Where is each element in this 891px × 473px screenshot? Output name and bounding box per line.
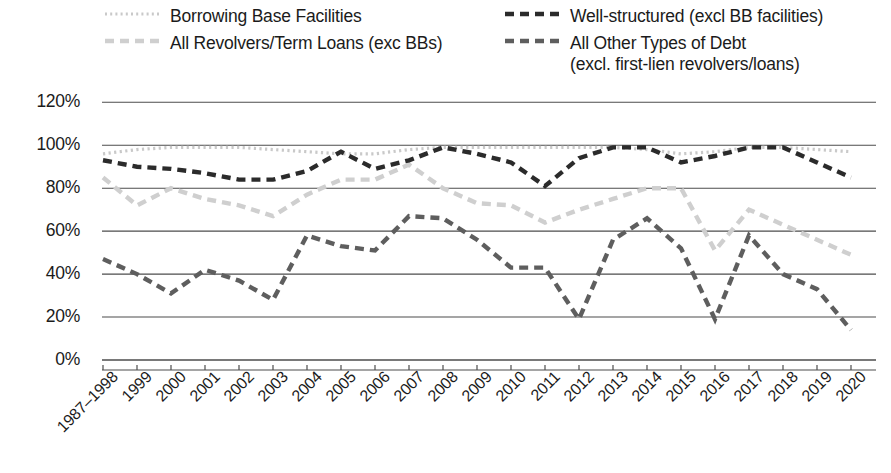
legend-label-well-structured: Well-structured (excl BB facilities) — [570, 6, 823, 27]
y-tick-label-40: 40% — [18, 263, 80, 284]
legend-swatch-dashed-dark-icon — [504, 8, 560, 25]
legend-column-right: Well-structured (excl BB facilities) All… — [504, 6, 891, 81]
legend-label-all-other-types-of-debt: All Other Types of Debt (excl. first-lie… — [570, 33, 800, 75]
legend-item-well-structured: Well-structured (excl BB facilities) — [504, 6, 891, 27]
legend-label-borrowing-base-facilities: Borrowing Base Facilities — [170, 6, 361, 27]
legend-swatch-dotted-light-icon — [104, 8, 160, 25]
legend-item-all-other-types-of-debt: All Other Types of Debt (excl. first-lie… — [504, 33, 891, 75]
series-line-1 — [103, 147, 851, 186]
plot-canvas — [0, 92, 891, 382]
legend-item-borrowing-base-facilities: Borrowing Base Facilities — [104, 6, 504, 27]
plot-area: 0%20%40%60%80%100%120% — [0, 92, 891, 382]
legend-swatch-dashed-light-icon — [104, 35, 160, 52]
y-tick-label-20: 20% — [18, 306, 80, 327]
series-line-3 — [103, 216, 851, 330]
legend-swatch-dashed-gray-icon — [504, 35, 560, 52]
chart-legend: Borrowing Base Facilities All Revolvers/… — [104, 6, 884, 92]
legend-column-left: Borrowing Base Facilities All Revolvers/… — [104, 6, 504, 60]
y-tick-label-60: 60% — [18, 220, 80, 241]
y-tick-label-80: 80% — [18, 177, 80, 198]
y-tick-label-100: 100% — [18, 134, 80, 155]
legend-label-all-revolvers-term-loans: All Revolvers/Term Loans (exc BBs) — [170, 33, 442, 54]
legend-item-all-revolvers-term-loans: All Revolvers/Term Loans (exc BBs) — [104, 33, 504, 54]
x-axis-labels: 1987–19981999200020012002200320042005200… — [0, 362, 891, 473]
y-tick-label-120: 120% — [18, 91, 80, 112]
chart-root: Borrowing Base Facilities All Revolvers/… — [0, 0, 891, 473]
